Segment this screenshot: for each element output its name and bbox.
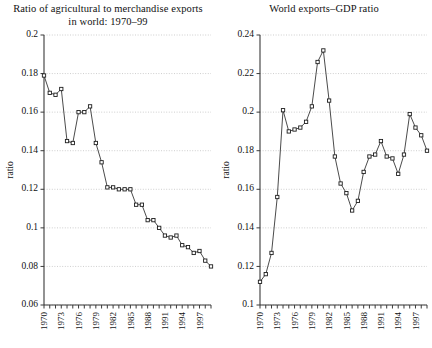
x-tick-label: 1979 (91, 312, 101, 331)
data-point-marker (140, 203, 143, 206)
data-point-marker (117, 188, 120, 191)
x-tick-label: 1976 (290, 312, 300, 331)
data-point-marker (181, 244, 184, 247)
data-point-marker (270, 251, 273, 254)
y-tick-label: 0.12 (21, 183, 38, 193)
x-tick-label: 1970 (255, 312, 265, 331)
data-point-marker (146, 218, 149, 221)
data-point-marker (408, 112, 411, 115)
y-tick-label: 0.1 (26, 222, 38, 232)
x-tick-label: 1982 (108, 312, 118, 330)
x-tick-label: 1973 (56, 312, 66, 331)
data-point-marker (77, 110, 80, 113)
y-tick-label: 0.16 (21, 106, 38, 116)
data-point-marker (362, 170, 365, 173)
data-point-marker (209, 265, 212, 268)
data-point-marker (420, 134, 423, 137)
data-point-marker (264, 272, 267, 275)
chart-panel-left: Ratio of agricultural to merchandise exp… (0, 0, 216, 348)
data-point-marker (276, 195, 279, 198)
data-point-marker (322, 49, 325, 52)
data-point-marker (397, 172, 400, 175)
x-tick-label: 1982 (324, 312, 334, 330)
data-point-marker (198, 249, 201, 252)
x-tick-label: 1994 (393, 312, 403, 331)
x-tick-label: 1997 (195, 312, 205, 331)
y-axis-title: ratio (221, 161, 231, 179)
plot-area-right: 0.10.120.140.160.180.20.220.241970197319… (216, 0, 432, 348)
x-tick-label: 1976 (74, 312, 84, 331)
y-tick-label: 0.14 (21, 145, 38, 155)
data-point-marker (258, 280, 261, 283)
data-point-marker (310, 105, 313, 108)
data-point-marker (129, 188, 132, 191)
data-point-marker (88, 105, 91, 108)
y-tick-label: 0.12 (237, 261, 254, 271)
y-tick-label: 0.22 (237, 68, 254, 78)
data-point-marker (106, 186, 109, 189)
data-point-marker (425, 149, 428, 152)
data-point-marker (83, 110, 86, 113)
data-point-marker (345, 191, 348, 194)
y-tick-label: 0.2 (26, 29, 38, 39)
dual-chart-figure: Ratio of agricultural to merchandise exp… (0, 0, 432, 348)
x-tick-label: 1997 (411, 312, 421, 331)
x-tick-label: 1970 (39, 312, 49, 331)
data-point-marker (163, 234, 166, 237)
data-point-marker (327, 99, 330, 102)
data-point-marker (333, 155, 336, 158)
data-point-marker (293, 128, 296, 131)
data-point-marker (60, 87, 63, 90)
data-point-marker (368, 155, 371, 158)
data-point-marker (350, 209, 353, 212)
data-point-marker (192, 251, 195, 254)
x-tick-label: 1988 (359, 312, 369, 331)
data-point-marker (42, 74, 45, 77)
x-tick-label: 1985 (342, 312, 352, 331)
data-point-marker (169, 236, 172, 239)
data-point-marker (402, 153, 405, 156)
data-point-marker (48, 91, 51, 94)
data-point-marker (316, 60, 319, 63)
data-point-marker (281, 109, 284, 112)
x-tick-label: 1979 (307, 312, 317, 331)
chart-panel-right: World exports–GDP ratio 0.10.120.140.160… (216, 0, 432, 348)
data-point-marker (54, 93, 57, 96)
data-point-marker (111, 186, 114, 189)
data-point-marker (374, 153, 377, 156)
x-tick-label: 1991 (376, 312, 386, 330)
data-point-marker (152, 218, 155, 221)
data-point-marker (71, 141, 74, 144)
y-tick-label: 0.06 (21, 299, 38, 309)
data-point-marker (379, 139, 382, 142)
y-tick-label: 0.16 (237, 183, 254, 193)
data-point-marker (304, 120, 307, 123)
data-point-marker (94, 141, 97, 144)
x-tick-label: 1991 (160, 312, 170, 330)
data-point-marker (204, 259, 207, 262)
x-tick-label: 1973 (272, 312, 282, 331)
series-line (44, 76, 211, 267)
data-point-marker (186, 245, 189, 248)
y-tick-label: 0.18 (237, 145, 254, 155)
y-tick-label: 0.1 (242, 299, 254, 309)
y-tick-label: 0.18 (21, 68, 38, 78)
series-line (260, 50, 427, 281)
y-tick-label: 0.14 (237, 222, 254, 232)
x-tick-label: 1994 (177, 312, 187, 331)
data-point-marker (134, 203, 137, 206)
y-tick-label: 0.2 (242, 106, 254, 116)
plot-area-left: 0.060.080.10.120.140.160.180.21970197319… (0, 0, 216, 348)
data-point-marker (356, 199, 359, 202)
data-point-marker (65, 139, 68, 142)
data-point-marker (385, 155, 388, 158)
y-tick-label: 0.24 (237, 29, 254, 39)
data-point-marker (339, 182, 342, 185)
y-axis-title: ratio (5, 161, 15, 179)
data-point-marker (158, 226, 161, 229)
data-point-marker (391, 157, 394, 160)
data-point-marker (299, 126, 302, 129)
x-tick-label: 1985 (126, 312, 136, 331)
data-point-marker (287, 130, 290, 133)
data-point-marker (123, 188, 126, 191)
